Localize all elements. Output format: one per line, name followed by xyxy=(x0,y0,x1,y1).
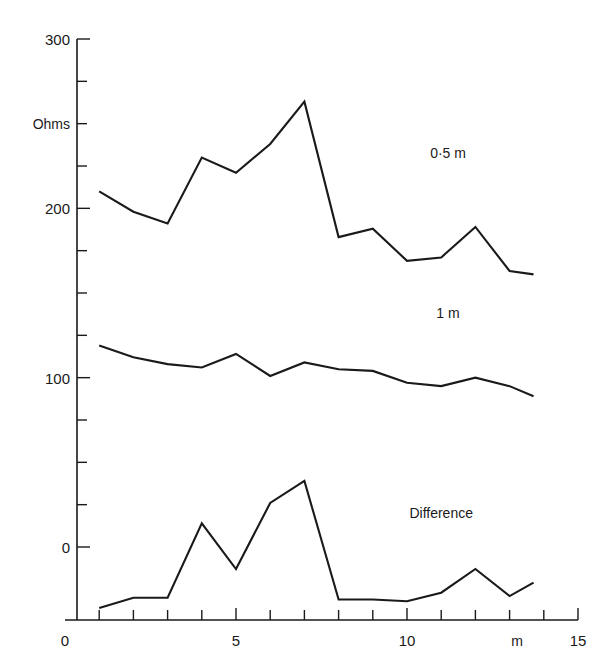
series-label: 0·5 m xyxy=(430,145,466,161)
x-axis-unit-label: m xyxy=(511,633,523,649)
series-label: 1 m xyxy=(436,305,459,321)
y-axis-ticks xyxy=(77,39,90,547)
x-tick-label: 10 xyxy=(399,632,416,649)
x-tick-label: 5 xyxy=(232,632,240,649)
series-annotation-group: 0·5 m1 mDifference xyxy=(409,145,473,522)
x-tick-label: 0 xyxy=(61,632,69,649)
y-tick-label: 100 xyxy=(45,370,70,387)
x-axis-group: 051015 m xyxy=(61,608,587,649)
x-axis-ticks xyxy=(99,608,578,620)
y-tick-label: 0 xyxy=(62,539,70,556)
x-tick-label: 15 xyxy=(570,632,587,649)
series-label: Difference xyxy=(409,505,473,521)
y-axis-title: Ohms xyxy=(33,116,70,132)
x-axis-tick-labels: 051015 xyxy=(61,632,587,649)
series-line xyxy=(99,481,533,608)
line-chart-plot: 0100200300 Ohms 051015 m 0·5 m1 mDiffere… xyxy=(0,0,598,666)
y-axis-group: 0100200300 Ohms xyxy=(33,31,90,620)
y-tick-label: 300 xyxy=(45,31,70,48)
y-axis-tick-labels: 0100200300 xyxy=(45,31,70,556)
chart-figure: 0100200300 Ohms 051015 m 0·5 m1 mDiffere… xyxy=(0,0,598,666)
y-tick-label: 200 xyxy=(45,200,70,217)
series-line xyxy=(99,102,533,275)
series-line xyxy=(99,345,533,396)
data-series-group xyxy=(99,102,533,608)
